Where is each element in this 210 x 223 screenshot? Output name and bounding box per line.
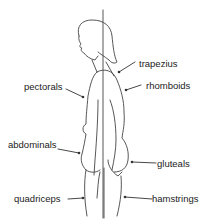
face-outline — [79, 36, 98, 60]
torso-front — [81, 72, 97, 170]
label-rhomboids: rhomboids — [146, 81, 190, 91]
front-leg — [85, 170, 87, 216]
arm-outline — [110, 100, 116, 170]
label-abdominals: abdominals — [8, 140, 57, 150]
label-gluteals: gluteals — [157, 159, 190, 169]
label-hamstrings: hamstrings — [152, 194, 198, 204]
back-leg — [117, 176, 121, 216]
label-trapezius: trapezius — [139, 59, 178, 69]
label-pectorals: pectorals — [24, 82, 63, 92]
figure-diagram — [0, 0, 210, 223]
label-quadriceps: quadriceps — [14, 194, 60, 204]
back-outline — [97, 70, 128, 172]
